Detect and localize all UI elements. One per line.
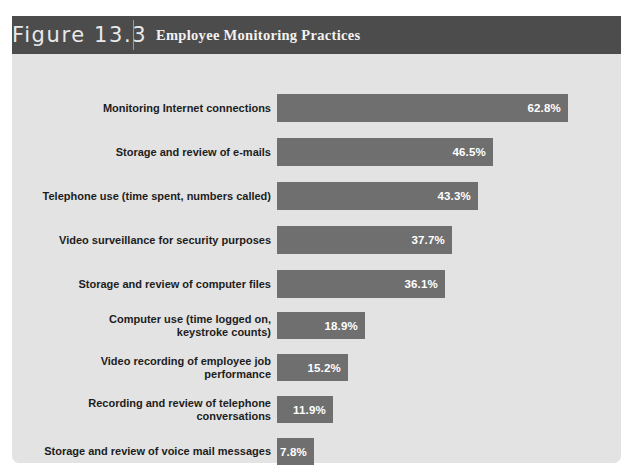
bar-category-label: Telephone use (time spent, numbers calle… (12, 190, 277, 203)
bar-value-label: 36.1% (404, 278, 438, 290)
bar: 43.3% (277, 182, 478, 210)
bar: 11.9% (277, 396, 333, 423)
scan-artifact-strip (0, 0, 633, 13)
bar-value-label: 43.3% (437, 190, 471, 202)
bar-track: 46.5% (277, 138, 621, 166)
bar-track: 18.9% (277, 312, 621, 339)
bar-track: 7.8% (277, 438, 621, 465)
figure-number-label: Figure 13.3 (12, 25, 133, 46)
bar-track: 37.7% (277, 226, 621, 254)
bar-track: 43.3% (277, 182, 621, 210)
bar-value-label: 15.2% (307, 362, 341, 374)
bar-category-label: Storage and review of voice mail message… (12, 445, 277, 458)
bar-category-label: Video recording of employee job performa… (12, 355, 277, 380)
bar-value-label: 11.9% (293, 404, 326, 416)
bar-category-label: Monitoring Internet connections (12, 102, 277, 115)
bar-row: Video surveillance for security purposes… (12, 226, 621, 254)
bar: 46.5% (277, 138, 493, 166)
bar-row: Recording and review of telephone conver… (12, 396, 621, 423)
bar-row: Storage and review of e-mails46.5% (12, 138, 621, 166)
bar-track: 11.9% (277, 396, 621, 423)
bar: 15.2% (277, 354, 348, 381)
bar-track: 36.1% (277, 270, 621, 298)
bar-chart: Monitoring Internet connections62.8%Stor… (12, 54, 621, 463)
bar-track: 15.2% (277, 354, 621, 381)
bar-row: Monitoring Internet connections62.8% (12, 94, 621, 122)
bar-value-label: 46.5% (452, 146, 486, 158)
bar-track: 62.8% (277, 94, 621, 122)
bar: 62.8% (277, 94, 568, 122)
bar-category-label: Recording and review of telephone conver… (12, 397, 277, 422)
bar-value-label: 37.7% (411, 234, 445, 246)
bar-row: Telephone use (time spent, numbers calle… (12, 182, 621, 210)
bar-value-label: 18.9% (324, 320, 358, 332)
bar-category-label: Video surveillance for security purposes (12, 234, 277, 247)
figure-panel: Figure 13.3 Employee Monitoring Practice… (12, 16, 621, 463)
bar: 18.9% (277, 312, 365, 339)
figure-header: Figure 13.3 Employee Monitoring Practice… (12, 16, 621, 54)
bar-row: Computer use (time logged on, keystroke … (12, 312, 621, 339)
bar: 7.8% (277, 438, 314, 465)
bar: 36.1% (277, 270, 445, 298)
bar-row: Storage and review of computer files36.1… (12, 270, 621, 298)
bar-row: Storage and review of voice mail message… (12, 438, 621, 465)
bar: 37.7% (277, 226, 452, 254)
bar-category-label: Computer use (time logged on, keystroke … (12, 313, 277, 338)
bar-row: Video recording of employee job performa… (12, 354, 621, 381)
figure-title: Employee Monitoring Practices (134, 27, 621, 44)
bar-category-label: Storage and review of computer files (12, 278, 277, 291)
bar-value-label: 7.8% (280, 446, 307, 458)
bar-value-label: 62.8% (527, 102, 561, 114)
bar-category-label: Storage and review of e-mails (12, 146, 277, 159)
